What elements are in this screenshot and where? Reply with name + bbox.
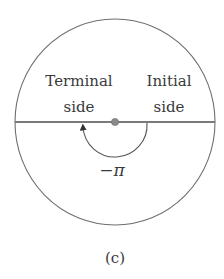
angle-diagram: Terminal side Initial side −π (c) (0, 0, 224, 279)
angle-measure-label: −π (92, 162, 132, 179)
terminal-side-label-line2: side (34, 100, 124, 115)
diagram-canvas (0, 0, 224, 279)
vertex-dot (111, 118, 118, 125)
terminal-side-label: Terminal (34, 74, 124, 89)
figure-caption: (c) (90, 251, 140, 266)
initial-side-label-line2: side (134, 100, 204, 115)
initial-side-label: Initial (134, 74, 204, 89)
angle-arc-arrow-icon (83, 123, 147, 157)
